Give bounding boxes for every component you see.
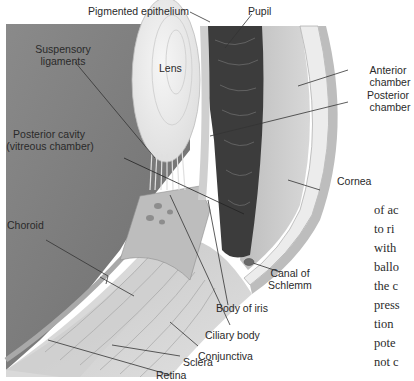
page-text-line-6: press xyxy=(374,296,400,316)
label-posterior-cavity-line2: (vitreous chamber) xyxy=(4,140,96,152)
label-pupil: Pupil xyxy=(248,5,271,17)
posterior-chamber-strip xyxy=(198,26,210,200)
page-text-line-5: the c xyxy=(374,277,398,297)
label-body-of-iris: Body of iris xyxy=(216,302,268,314)
label-retina: Retina xyxy=(156,369,186,381)
label-ciliary-body: Ciliary body xyxy=(205,329,260,341)
label-suspensory-ligaments-line2: ligaments xyxy=(33,55,93,67)
label-canal-of-schlemm-line2: Schlemm xyxy=(260,279,320,291)
page-text-line-4: ballo xyxy=(374,258,399,278)
canal-of-schlemm-shape xyxy=(244,259,254,266)
page-text-line-2: to ri xyxy=(374,220,394,240)
page-text-line-3: with xyxy=(374,239,396,259)
lens-shape xyxy=(132,0,200,162)
page-text-line-8: pote xyxy=(374,334,396,354)
page-text-line-1: of ac xyxy=(374,201,399,221)
label-posterior-chamber-line2: chamber xyxy=(366,101,414,113)
page-text-line-7: tion xyxy=(374,315,393,335)
label-posterior-cavity-line1: Posterior cavity xyxy=(4,128,94,140)
label-anterior-chamber-line2: chamber xyxy=(366,76,414,88)
label-choroid: Choroid xyxy=(7,219,44,231)
page-text-line-9: not c xyxy=(374,353,399,373)
label-lens: Lens xyxy=(159,62,182,74)
label-canal-of-schlemm-line1: Canal of xyxy=(260,267,320,279)
label-pigmented-epithelium: Pigmented epithelium xyxy=(88,5,189,17)
label-sclera: Sclera xyxy=(183,356,213,368)
label-suspensory-ligaments-line1: Suspensory xyxy=(33,43,93,55)
label-posterior-chamber-line1: Posterior xyxy=(364,89,412,101)
label-cornea: Cornea xyxy=(337,175,371,187)
label-anterior-chamber-line1: Anterior xyxy=(364,64,412,76)
